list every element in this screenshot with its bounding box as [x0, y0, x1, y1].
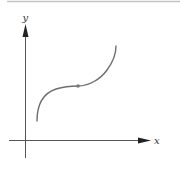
- y-axis: y: [22, 12, 29, 158]
- x-axis: x: [9, 135, 160, 146]
- y-axis-arrowhead-icon: [23, 24, 29, 37]
- function-curve: [37, 46, 116, 121]
- y-axis-label: y: [22, 12, 29, 23]
- inflection-point-marker: [76, 84, 80, 88]
- x-axis-arrowhead-icon: [138, 138, 151, 144]
- function-graph-diagram: y x: [0, 0, 180, 169]
- x-axis-label: x: [154, 135, 160, 146]
